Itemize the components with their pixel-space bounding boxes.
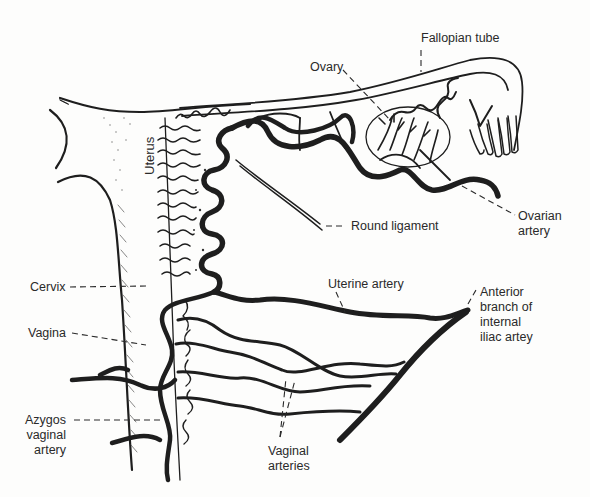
label-uterus: Uterus bbox=[142, 137, 157, 175]
label-azygos-line2: vaginal bbox=[22, 428, 66, 443]
label-round-ligament: Round ligament bbox=[351, 219, 439, 234]
uterine-artery-trunk bbox=[214, 292, 468, 318]
uterine-body-stipple bbox=[103, 117, 131, 191]
label-uterine-artery: Uterine artery bbox=[328, 277, 404, 292]
leader-vagina bbox=[72, 333, 146, 345]
label-anterior-branch-line1: Anterior bbox=[480, 285, 524, 300]
vascular-illustration bbox=[0, 0, 590, 497]
leader-cervix bbox=[70, 286, 148, 287]
vaginal-arteries bbox=[176, 318, 404, 414]
leader-anterior-branch bbox=[468, 290, 476, 304]
label-anterior-branch-line4: iliac artey bbox=[480, 330, 533, 345]
label-anterior-branch-line2: branch of bbox=[480, 300, 532, 315]
label-vagina: Vagina bbox=[28, 326, 66, 341]
azygos-vaginal-artery bbox=[72, 292, 214, 480]
label-ovary: Ovary bbox=[310, 60, 343, 75]
uterine-artery-coils bbox=[202, 128, 233, 292]
fimbriae bbox=[470, 116, 518, 157]
label-vaginal-arteries-line1: Vaginal bbox=[268, 444, 309, 459]
label-vaginal-arteries-line2: arteries bbox=[268, 459, 310, 474]
leader-ovarian-artery bbox=[462, 186, 515, 215]
anatomy-diagram: Fallopian tube Ovary Uterus Round ligame… bbox=[0, 0, 590, 497]
label-fallopian-tube: Fallopian tube bbox=[421, 31, 500, 46]
label-azygos-line3: artery bbox=[22, 443, 66, 458]
label-ovarian-artery-line1: Ovarian bbox=[518, 209, 562, 224]
leader-ovary bbox=[343, 70, 392, 122]
ovary-vessels bbox=[378, 114, 438, 162]
label-anterior-branch-line3: internal bbox=[480, 315, 521, 330]
label-cervix: Cervix bbox=[30, 280, 65, 295]
label-ovarian-artery-line2: artery bbox=[518, 224, 550, 239]
label-azygos-line1: Azygos bbox=[22, 413, 66, 428]
round-ligament bbox=[236, 160, 322, 230]
ovarian-artery bbox=[232, 121, 498, 196]
